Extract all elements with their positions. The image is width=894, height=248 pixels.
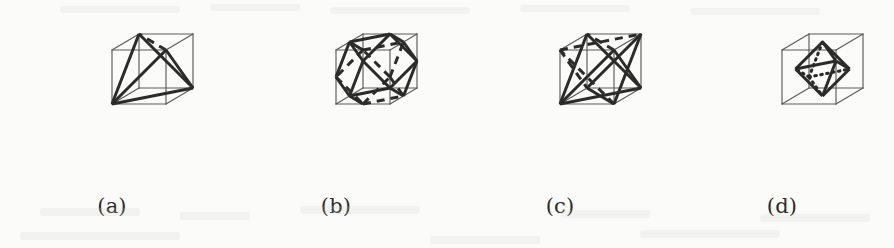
panel-a: (a) <box>0 0 224 248</box>
panel-c-diagram <box>448 0 672 200</box>
panel-c: (c) <box>448 0 672 248</box>
figure-sheet: (a) (b) (c) (d) <box>0 0 894 248</box>
solid-tetrahedron <box>112 34 193 104</box>
panel-d-label: (d) <box>670 196 894 217</box>
panel-c-label: (c) <box>448 196 672 217</box>
panel-b: (b) <box>224 0 448 248</box>
panel-b-label: (b) <box>224 196 448 217</box>
panel-d: (d) <box>670 0 894 248</box>
solid-stella-octangula <box>560 34 641 104</box>
panel-b-diagram <box>224 0 448 200</box>
panel-a-diagram <box>0 0 224 200</box>
panel-d-diagram <box>670 0 894 200</box>
solid-cuboctahedron <box>336 34 417 104</box>
panel-a-label: (a) <box>0 196 224 217</box>
